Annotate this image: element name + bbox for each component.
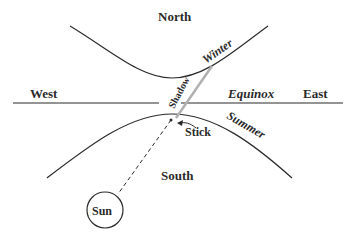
west-label: West (30, 86, 58, 101)
stick-point (170, 119, 173, 122)
diagram-canvas: North South West East Equinox Winter Sum… (0, 0, 353, 236)
sun-label: Sun (92, 204, 112, 218)
arrowhead-icon (177, 120, 183, 126)
south-label: South (161, 168, 194, 183)
equinox-label: Equinox (227, 86, 275, 101)
summer-label: Summer (225, 108, 269, 141)
north-label: North (158, 9, 192, 24)
east-label: East (303, 86, 328, 101)
stick-label: Stick (185, 125, 211, 139)
shadow-label: Shadow (166, 74, 192, 110)
sundial-diagram: North South West East Equinox Winter Sum… (0, 0, 353, 236)
winter-curve (70, 26, 268, 78)
